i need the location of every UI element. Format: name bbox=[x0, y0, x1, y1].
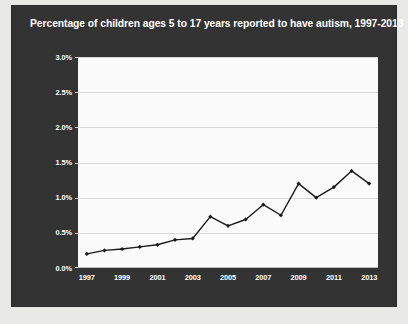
data-point-marker bbox=[102, 248, 106, 252]
data-point-marker bbox=[138, 245, 142, 249]
y-axis-tick-label: 1.0% bbox=[32, 193, 72, 202]
x-axis-tick-label: 2009 bbox=[282, 273, 316, 282]
slide-frame: Percentage of children ages 5 to 17 year… bbox=[0, 0, 408, 324]
series-line bbox=[87, 171, 369, 254]
data-point-marker bbox=[120, 247, 124, 251]
data-point-marker bbox=[85, 252, 89, 256]
y-axis-tick-label: 2.5% bbox=[32, 88, 72, 97]
chart-plot-area bbox=[78, 57, 378, 268]
y-axis-tick-mark bbox=[75, 57, 78, 58]
x-axis-tick-label: 2001 bbox=[140, 273, 174, 282]
y-axis-tick-label: 0.0% bbox=[32, 264, 72, 273]
x-axis-tick-label: 1997 bbox=[70, 273, 104, 282]
y-axis-tick-mark bbox=[75, 198, 78, 199]
y-axis-tick-mark bbox=[75, 92, 78, 93]
y-axis-tick-label: 1.5% bbox=[32, 158, 72, 167]
x-axis-tick-label: 1999 bbox=[105, 273, 139, 282]
y-axis-tick-mark bbox=[75, 163, 78, 164]
x-axis-tick-label: 2007 bbox=[246, 273, 280, 282]
y-axis-tick-label: 3.0% bbox=[32, 53, 72, 62]
slide-panel: Percentage of children ages 5 to 17 year… bbox=[12, 6, 396, 306]
x-axis-tick-label: 2013 bbox=[352, 273, 386, 282]
y-axis-tick-mark bbox=[75, 233, 78, 234]
page-title: Percentage of children ages 5 to 17 year… bbox=[30, 18, 386, 29]
x-axis-tick-label: 2011 bbox=[317, 273, 351, 282]
y-axis-tick-mark bbox=[75, 267, 78, 268]
x-axis-tick-label: 2003 bbox=[176, 273, 210, 282]
y-axis-tick-mark bbox=[75, 127, 78, 128]
data-point-marker bbox=[155, 243, 159, 247]
x-axis-tick-label: 2005 bbox=[211, 273, 245, 282]
y-axis-tick-label: 0.5% bbox=[32, 228, 72, 237]
data-point-marker bbox=[173, 238, 177, 242]
series-autism-percentage bbox=[78, 57, 378, 268]
y-axis-tick-label: 2.0% bbox=[32, 123, 72, 132]
